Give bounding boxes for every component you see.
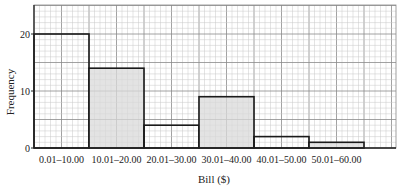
x-category-label: 20.01–30.00 xyxy=(147,154,197,165)
x-axis-label: Bill ($) xyxy=(198,173,230,186)
y-tick-labels: 01020 xyxy=(20,29,34,154)
bar-10.01–20.00 xyxy=(89,68,144,148)
x-category-label: 40.01–50.00 xyxy=(257,154,307,165)
y-axis-label: Frequency xyxy=(4,68,16,115)
y-tick-10: 10 xyxy=(20,86,30,97)
bar-30.01–40.00 xyxy=(199,97,254,148)
x-category-label: 10.01–20.00 xyxy=(92,154,142,165)
y-tick-0: 0 xyxy=(25,143,30,154)
x-category-label: 50.01–60.00 xyxy=(312,154,362,165)
bar-50.01–60.00 xyxy=(309,142,364,148)
histogram-chart: 01020 0.01–10.0010.01–20.0020.01–30.0030… xyxy=(0,0,400,187)
y-tick-20: 20 xyxy=(20,29,30,40)
x-category-labels: 0.01–10.0010.01–20.0020.01–30.0030.01–40… xyxy=(39,154,362,165)
x-category-label: 0.01–10.00 xyxy=(39,154,84,165)
x-category-label: 30.01–40.00 xyxy=(202,154,252,165)
